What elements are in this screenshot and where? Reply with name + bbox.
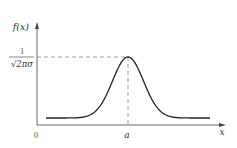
peak-numerator: 1 — [20, 46, 24, 56]
mean-label: a — [124, 130, 129, 140]
normal-distribution-chart: f(x) 1 √2πσ 0 a x — [0, 0, 237, 148]
y-axis-arrow-icon — [35, 22, 39, 29]
y-axis-label: f(x) — [12, 21, 30, 32]
origin-label: 0 — [34, 130, 38, 140]
x-axis-label: x — [219, 127, 224, 137]
peak-denominator: √2πσ — [11, 59, 33, 69]
